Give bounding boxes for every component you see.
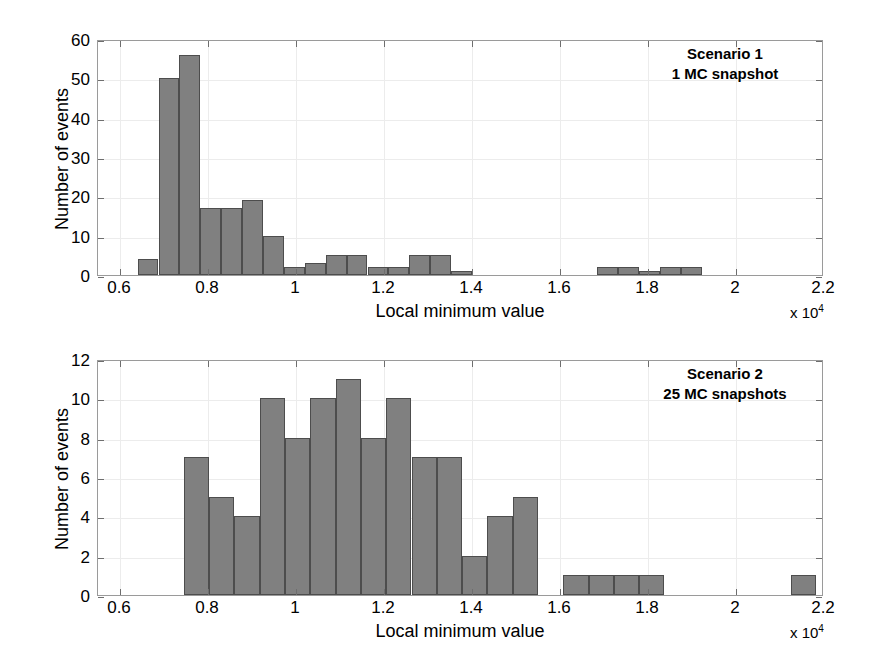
y-axis-tick-label: 30 bbox=[71, 150, 90, 167]
x-axis-tick-label: 0.6 bbox=[107, 279, 131, 296]
histogram-bar bbox=[285, 438, 310, 595]
y-axis-tick bbox=[98, 80, 104, 81]
y-axis-tick bbox=[98, 238, 104, 239]
x-axis-tick bbox=[208, 41, 209, 47]
y-axis-tick-label: 20 bbox=[71, 189, 90, 206]
histogram-bar bbox=[347, 255, 368, 275]
x-axis-tick bbox=[296, 361, 297, 367]
y-axis-tick-label: 0 bbox=[81, 588, 90, 605]
histogram-bar bbox=[242, 200, 263, 275]
histogram-bar bbox=[660, 267, 681, 275]
x-axis-tick-label: 1 bbox=[290, 279, 299, 296]
y-axis-tick-label: 40 bbox=[71, 110, 90, 127]
histogram-bar bbox=[388, 267, 409, 275]
x-axis-tick-label: 1.8 bbox=[635, 279, 659, 296]
x-axis-exponent-bottom: x 104 bbox=[790, 624, 824, 640]
x-axis-tick bbox=[472, 589, 473, 595]
histogram-bar bbox=[336, 379, 361, 595]
x-axis-tick bbox=[560, 269, 561, 275]
histogram-bar bbox=[462, 556, 487, 595]
y-axis-tick bbox=[98, 120, 104, 121]
histogram-bar bbox=[681, 267, 702, 275]
annotation-scenario-2: Scenario 2 25 MC snapshots bbox=[630, 364, 820, 405]
histogram-bar bbox=[791, 575, 816, 595]
histogram-bar bbox=[412, 457, 437, 595]
x-axis-exponent-top: x 104 bbox=[790, 304, 824, 320]
y-axis-tick bbox=[816, 159, 822, 160]
x-axis-tick bbox=[560, 589, 561, 595]
histogram-bar bbox=[234, 516, 259, 595]
y-axis-tick-label: 2 bbox=[81, 548, 90, 565]
x-axis-tick bbox=[296, 41, 297, 47]
exponent-power-top: 4 bbox=[818, 303, 824, 314]
x-axis-tick-label: 2 bbox=[730, 599, 739, 616]
y-axis-tick bbox=[816, 198, 822, 199]
histogram-bar bbox=[487, 516, 512, 595]
y-axis-tick bbox=[98, 159, 104, 160]
histogram-bar bbox=[409, 255, 430, 275]
y-axis-tick bbox=[98, 597, 104, 598]
annotation-line2-top: 1 MC snapshot bbox=[630, 64, 820, 84]
histogram-bar bbox=[361, 438, 386, 595]
y-axis-tick bbox=[816, 440, 822, 441]
y-axis-tick-label: 12 bbox=[71, 352, 90, 369]
histogram-bar bbox=[563, 575, 588, 595]
x-axis-tick bbox=[648, 589, 649, 595]
histogram-bar bbox=[368, 267, 389, 275]
y-axis-tick-label: 50 bbox=[71, 71, 90, 88]
histogram-bar bbox=[597, 267, 618, 275]
histogram-bar bbox=[159, 78, 180, 275]
y-axis-tick bbox=[98, 518, 104, 519]
histogram-bar bbox=[221, 208, 242, 275]
y-axis-tick bbox=[816, 479, 822, 480]
x-axis-tick bbox=[472, 41, 473, 47]
y-axis-tick bbox=[98, 400, 104, 401]
y-axis-tick bbox=[98, 361, 104, 362]
x-axis-tick-label: 1.8 bbox=[635, 599, 659, 616]
y-axis-tick bbox=[98, 479, 104, 480]
histogram-bar bbox=[618, 267, 639, 275]
y-axis-tick bbox=[98, 440, 104, 441]
y-axis-tick bbox=[816, 238, 822, 239]
y-axis-tick bbox=[98, 41, 104, 42]
histogram-bar bbox=[284, 267, 305, 275]
x-axis-tick-labels-bottom: 0.60.811.21.41.61.822.2 bbox=[97, 599, 823, 621]
histogram-bar bbox=[179, 55, 200, 275]
x-axis-tick bbox=[648, 269, 649, 275]
histogram-bar bbox=[430, 255, 451, 275]
x-axis-tick bbox=[472, 269, 473, 275]
x-axis-tick bbox=[120, 269, 121, 275]
histogram-bar bbox=[589, 575, 614, 595]
panel-scenario-2: Number of events 024681012 0.60.811.21.4… bbox=[0, 329, 870, 657]
panel-scenario-1: Number of events 0102030405060 0.60.811.… bbox=[0, 0, 870, 328]
x-axis-title-top: Local minimum value bbox=[97, 302, 823, 320]
histogram-bar bbox=[614, 575, 639, 595]
x-axis-tick-labels-top: 0.60.811.21.41.61.822.2 bbox=[97, 279, 823, 301]
histogram-bar bbox=[209, 497, 234, 595]
histogram-bar bbox=[513, 497, 538, 595]
x-axis-tick bbox=[296, 269, 297, 275]
y-axis-tick-label: 10 bbox=[71, 391, 90, 408]
histogram-figure: Number of events 0102030405060 0.60.811.… bbox=[0, 0, 870, 657]
histogram-bar bbox=[200, 208, 221, 275]
y-axis-tick-labels-top: 0102030405060 bbox=[54, 40, 90, 276]
x-axis-tick-label: 2 bbox=[730, 279, 739, 296]
x-axis-tick-label: 1 bbox=[290, 599, 299, 616]
y-axis-tick bbox=[816, 518, 822, 519]
x-axis-tick-label: 1.2 bbox=[371, 279, 395, 296]
x-axis-tick-label: 1.6 bbox=[547, 599, 571, 616]
x-axis-tick bbox=[384, 269, 385, 275]
x-axis-tick bbox=[384, 41, 385, 47]
x-axis-tick-label: 0.8 bbox=[195, 599, 219, 616]
x-axis-tick-label: 1.4 bbox=[459, 599, 483, 616]
x-axis-tick-label: 0.8 bbox=[195, 279, 219, 296]
x-axis-tick bbox=[296, 589, 297, 595]
x-axis-tick bbox=[120, 41, 121, 47]
exponent-prefix-top: x 10 bbox=[790, 304, 818, 321]
y-axis-tick bbox=[98, 277, 104, 278]
histogram-bar bbox=[260, 398, 285, 595]
y-axis-tick bbox=[816, 120, 822, 121]
y-axis-tick bbox=[816, 361, 822, 362]
x-axis-tick-label: 1.6 bbox=[547, 279, 571, 296]
histogram-bar bbox=[437, 457, 462, 595]
